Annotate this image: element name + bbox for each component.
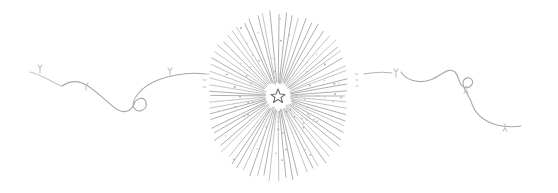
sparkle-dot (317, 120, 318, 121)
sparkle-dot (315, 120, 316, 121)
sparkle-dot (247, 113, 249, 115)
sparkle-dot (252, 101, 254, 103)
sparkle-dot (243, 115, 245, 117)
sparkle-dot (309, 154, 311, 156)
sparkle-dot (289, 34, 290, 35)
starburst-ray (279, 13, 286, 84)
sparkle-dot (338, 83, 339, 84)
sparkle-dot (240, 63, 241, 64)
sprig-icon (84, 83, 88, 90)
starburst-ray (278, 15, 279, 83)
sparkle-dot (239, 96, 241, 98)
sparkle-dot (278, 73, 280, 75)
sparkle-dot (274, 71, 276, 73)
sparkle-dot (258, 60, 260, 62)
sparkle-dot (340, 97, 342, 99)
sparkle-dot (317, 95, 319, 97)
sparkle-dot (307, 106, 309, 108)
sparkle-dot (290, 109, 292, 111)
sparkle-dot (309, 115, 310, 116)
starburst-ray (286, 24, 319, 82)
sparkle-dot (234, 106, 236, 108)
sparkle-dot (304, 149, 306, 151)
divider-artwork (0, 0, 558, 193)
sparkle-dot (324, 96, 325, 97)
sparkle-dot (334, 93, 336, 95)
starburst-ray (245, 23, 272, 82)
starburst-ray (288, 40, 336, 86)
sparkle-dot (282, 132, 284, 134)
sparkle-dot (313, 119, 315, 121)
sparkle-dot (333, 83, 335, 85)
sparkle-dot (250, 83, 252, 85)
sparkle-dot (296, 95, 297, 96)
sparkle-dot (304, 98, 306, 100)
sparkle-dot (246, 75, 248, 77)
sparkle-dot (306, 71, 307, 72)
starburst-ray (228, 35, 269, 84)
starburst-ray (214, 105, 265, 141)
sparkle-dot (303, 127, 305, 129)
sparkle-dot (226, 73, 228, 75)
sparkle-dot (247, 102, 249, 104)
sparkle-dot (233, 158, 235, 160)
starburst-ray (292, 91, 346, 95)
sparkle-dot (309, 84, 311, 86)
starburst-ray (288, 47, 338, 88)
sparkle-dot (281, 159, 283, 161)
sprig-icon (394, 69, 398, 77)
sparkle-dot (307, 114, 309, 116)
sparkle-dot (324, 80, 325, 81)
sparkle-dot (225, 135, 226, 136)
starburst-ray (229, 108, 269, 157)
sparkle-dot (279, 18, 281, 20)
starburst-ray (209, 91, 265, 95)
sparkle-dot (247, 70, 248, 71)
starburst-ray (211, 95, 265, 96)
sparkle-dot (278, 121, 280, 123)
sprig-icon (38, 65, 42, 73)
sparkle-dot (277, 128, 279, 130)
sparkle-dot (246, 42, 247, 43)
sparkle-dot (285, 149, 287, 151)
left-ribbon-flourish (30, 65, 209, 112)
sparkle-dot (257, 148, 258, 149)
sparkle-dot (271, 57, 272, 58)
sparkle-dot (240, 27, 242, 29)
sparkle-dot (286, 111, 288, 113)
starburst-ray (269, 111, 276, 181)
sparkle-dot (305, 119, 306, 120)
sparkle-dot (324, 63, 326, 65)
sparkle-dot (316, 54, 317, 55)
decorative-divider (0, 0, 558, 193)
sparkle-dot (332, 101, 334, 103)
starburst-ray (290, 84, 347, 94)
sparkle-dot (251, 39, 252, 40)
center-star (267, 85, 289, 107)
sparkle-dot (303, 122, 305, 124)
sparkle-dot (218, 110, 219, 111)
sprig-icon (168, 68, 172, 75)
sparkle-dot (250, 66, 252, 68)
sparkle-dot (234, 86, 236, 88)
sparkle-dot (294, 116, 296, 118)
sparkle-dot (301, 117, 303, 119)
sparkle-dot (273, 113, 275, 115)
sparkle-dot (275, 152, 277, 154)
right-ribbon-flourish (355, 69, 521, 131)
sparkle-dot (217, 67, 218, 68)
sparkle-dot (265, 126, 267, 128)
sparkle-dot (252, 55, 253, 56)
sparkle-dot (278, 116, 280, 118)
sparkle-dot (280, 40, 282, 42)
sparkle-dot (257, 32, 258, 33)
sparkle-dot (306, 62, 307, 63)
sprig-icon (503, 124, 507, 131)
